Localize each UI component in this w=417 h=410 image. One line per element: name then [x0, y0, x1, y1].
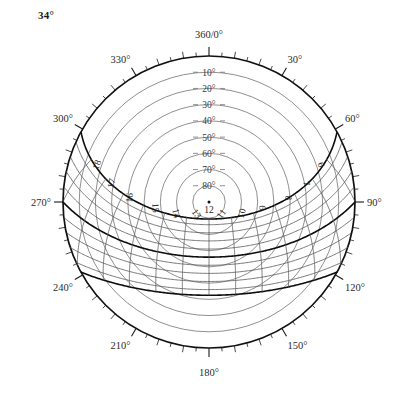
azimuth-tick-310	[92, 104, 97, 108]
azimuth-tick-260	[59, 227, 65, 228]
azimuth-tick-340	[157, 59, 159, 65]
azimuth-tick-170	[234, 346, 235, 352]
azimuth-tick-110	[346, 252, 352, 254]
hour-label-12: 12	[204, 205, 214, 215]
hour-label-16: 16	[124, 192, 135, 203]
altitude-label-60: 60°	[202, 149, 216, 159]
azimuth-label-30: 30°	[288, 54, 303, 65]
azimuth-tick-100	[353, 227, 359, 228]
azimuth-label-90: 90°	[367, 197, 382, 208]
azimuth-tick-70	[346, 150, 352, 152]
azimuth-label-0: 360/0°	[195, 29, 223, 40]
azimuth-tick-330	[132, 68, 137, 76]
azimuth-tick-40	[303, 85, 307, 90]
azimuth-label-150: 150°	[288, 340, 308, 351]
azimuth-tick-10	[234, 52, 235, 58]
azimuth-tick-210	[132, 328, 137, 336]
azimuth-tick-280	[59, 176, 65, 177]
azimuth-label-330: 330°	[111, 54, 131, 65]
azimuth-tick-160	[259, 339, 261, 345]
altitude-label-10: 10°	[202, 68, 216, 78]
azimuth-label-270: 270°	[31, 197, 51, 208]
altitude-label-80: 80°	[202, 181, 216, 191]
azimuth-tick-220	[111, 314, 115, 319]
hour-label-9: 9	[258, 205, 268, 210]
altitude-label-30: 30°	[202, 100, 216, 110]
altitude-label-70: 70°	[202, 165, 216, 175]
azimuth-tick-20	[259, 59, 261, 65]
azimuth-label-180: 180°	[199, 367, 219, 378]
azimuth-label-60: 60°	[345, 113, 360, 124]
azimuth-tick-60	[335, 125, 343, 130]
azimuth-tick-140	[303, 314, 307, 319]
azimuth-tick-240	[75, 275, 83, 280]
azimuth-label-300: 300°	[53, 113, 73, 124]
azimuth-tick-300	[75, 125, 83, 130]
azimuth-tick-120	[335, 275, 343, 280]
azimuth-tick-350	[183, 52, 184, 58]
azimuth-label-120: 120°	[345, 282, 365, 293]
polar-chart-canvas: 10°20°30°40°50°60°70°80° 360/0°30°60°90°…	[0, 0, 417, 410]
azimuth-tick-80	[353, 176, 359, 177]
azimuth-tick-30	[282, 68, 287, 76]
azimuth-tick-230	[92, 296, 97, 300]
azimuth-label-240: 240°	[53, 282, 73, 293]
azimuth-tick-50	[321, 104, 326, 108]
hour-label-15: 15	[150, 203, 160, 213]
azimuth-tick-250	[66, 252, 72, 254]
azimuth-tick-150	[282, 328, 287, 336]
azimuth-tick-320	[111, 85, 115, 90]
azimuth-tick-130	[321, 296, 326, 300]
zenith-center-dot	[208, 201, 211, 204]
altitude-label-20: 20°	[202, 84, 216, 94]
azimuth-tick-190	[183, 346, 184, 352]
azimuth-tick-290	[66, 150, 72, 152]
azimuth-label-210: 210°	[111, 340, 131, 351]
altitude-label-50: 50°	[202, 133, 216, 143]
azimuth-tick-200	[157, 339, 159, 345]
sun-path-diagram: 34° 10°20°30°40°50°60°70°80° 360/0°30°60…	[0, 0, 417, 410]
altitude-label-40: 40°	[202, 116, 216, 126]
